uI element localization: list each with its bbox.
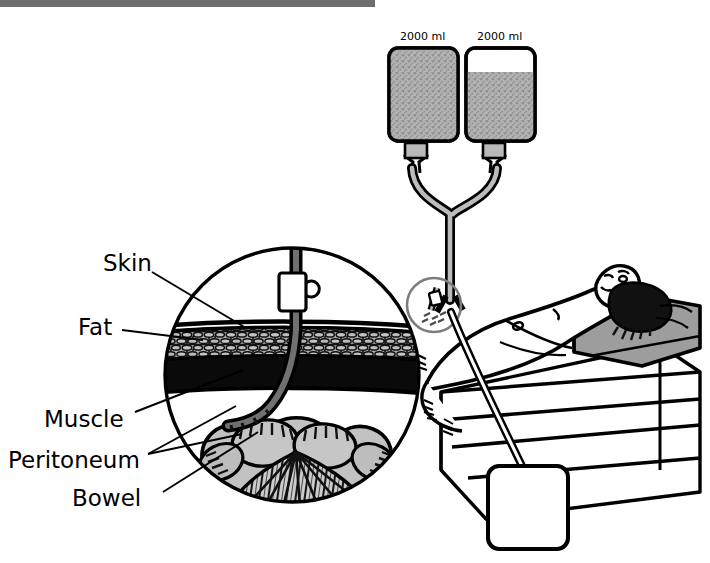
bag-caption-right: 2000 ml [477, 31, 522, 42]
artwork [0, 0, 710, 563]
label-muscle: Muscle [44, 408, 124, 431]
label-fat: Fat [78, 316, 112, 339]
dialysate-bag-right[interactable] [466, 48, 535, 173]
illustration-canvas: Skin Fat Muscle Peritoneum Bowel 2000 ml… [0, 0, 710, 563]
dialysate-bag-left[interactable] [389, 48, 458, 173]
label-bowel: Bowel [72, 487, 141, 510]
label-skin: Skin [103, 252, 152, 275]
y-tubing [412, 168, 497, 312]
drainage-bag[interactable] [488, 466, 568, 549]
bag-caption-left: 2000 ml [400, 31, 445, 42]
label-peritoneum: Peritoneum [8, 449, 140, 472]
